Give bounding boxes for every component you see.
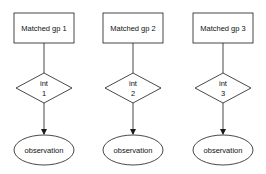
matched-group-label-2: Matched gp 2 — [110, 24, 155, 33]
outcome-label-2: observation — [114, 146, 153, 155]
flowchart-canvas: Matched gp 1 int 1 observation Matched g… — [0, 0, 266, 174]
matched-group-label-1: Matched gp 1 — [21, 24, 66, 33]
decision-label-line1-1: int — [40, 79, 49, 88]
decision-diamond-2 — [105, 73, 161, 103]
column-1: Matched gp 1 int 1 observation — [14, 13, 74, 165]
decision-diamond-1 — [16, 73, 72, 103]
decision-label-line2-3: 3 — [221, 89, 225, 98]
column-3: Matched gp 3 int 3 observation — [193, 13, 253, 165]
decision-label-line1-3: int — [219, 79, 228, 88]
decision-diamond-3 — [195, 73, 251, 103]
matched-group-label-3: Matched gp 3 — [200, 24, 245, 33]
decision-label-line2-2: 2 — [131, 89, 135, 98]
outcome-label-3: observation — [204, 146, 243, 155]
column-2: Matched gp 2 int 2 observation — [103, 13, 163, 165]
decision-label-line2-1: 1 — [42, 89, 46, 98]
outcome-label-1: observation — [25, 146, 64, 155]
decision-label-line1-2: int — [129, 79, 138, 88]
